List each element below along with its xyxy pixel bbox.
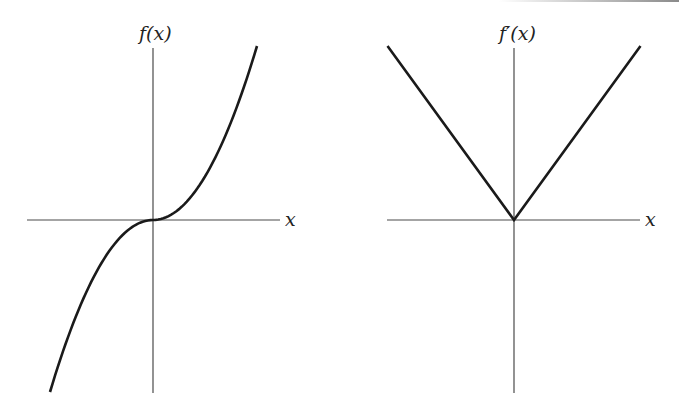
x-axis-label-left: x [285,208,296,230]
y-axis-label-left: f(x) [137,22,172,44]
y-axis-label-right: f′(x) [497,22,536,44]
figure: f(x) x f′(x) x [0,0,679,420]
plot-fprime: f′(x) x [387,22,656,393]
x-axis-label-right: x [645,208,656,230]
plot-f: f(x) x [27,22,296,393]
